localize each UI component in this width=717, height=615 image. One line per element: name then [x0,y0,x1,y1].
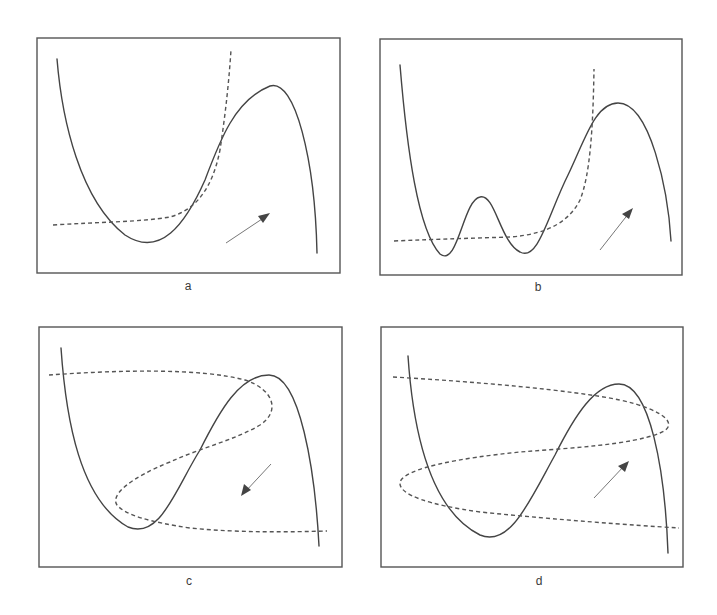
panel-c-frame [39,327,342,567]
panel-c [39,327,342,567]
panel-a-dashed-curve [53,50,231,225]
panel-b [380,39,682,275]
panel-d-solid-curve [408,356,668,553]
panel-b-arrow-icon [600,208,633,250]
panel-b-solid-curve [400,65,671,256]
panel-d [381,327,683,567]
panel-a [37,38,340,273]
panel-d-dashed-curve [393,377,679,528]
panel-a-arrow-icon [226,213,270,243]
panel-d-arrow-icon [594,461,629,498]
panel-c-arrow-icon [241,464,271,496]
panel-a-solid-curve [57,59,317,253]
panel-a-label: a [185,280,192,292]
figure [0,0,717,615]
panel-c-label: c [186,575,192,587]
panel-c-dashed-curve [49,371,327,532]
panel-c-solid-curve [61,348,319,546]
panel-d-frame [381,327,683,567]
panel-a-frame [37,38,340,273]
panel-b-label: b [535,281,542,293]
panel-d-label: d [536,575,543,587]
panel-b-dashed-curve [394,69,594,241]
